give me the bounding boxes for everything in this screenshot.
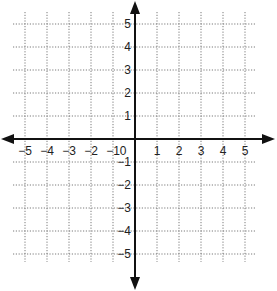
- x-axis-right-arrow-icon: [262, 134, 275, 144]
- x-tick-label: 4: [220, 144, 227, 158]
- y-axis-up-arrow-icon: [130, 1, 140, 14]
- coordinate-plane: −5−4−3−2−112345 54321−1−2−3−4−5 0: [0, 0, 277, 291]
- origin-label: 0: [120, 144, 127, 158]
- y-tick-label: 4: [124, 40, 131, 54]
- x-tick-labels: −5−4−3−2−112345: [18, 144, 249, 158]
- y-tick-label: 1: [124, 109, 131, 123]
- x-axis-left-arrow-icon: [1, 134, 14, 144]
- y-axis: [130, 1, 140, 290]
- y-tick-label: −4: [117, 224, 131, 238]
- x-tick-label: −2: [84, 144, 98, 158]
- y-tick-label: −5: [117, 247, 131, 261]
- x-tick-label: −5: [18, 144, 32, 158]
- x-tick-label: −3: [62, 144, 76, 158]
- y-tick-label: −3: [117, 201, 131, 215]
- x-tick-label: 1: [154, 144, 161, 158]
- x-axis: [1, 134, 275, 144]
- x-tick-label: 2: [176, 144, 183, 158]
- x-tick-label: −4: [40, 144, 54, 158]
- y-tick-label: −2: [117, 178, 131, 192]
- y-axis-down-arrow-icon: [130, 277, 140, 290]
- y-tick-label: 5: [124, 17, 131, 31]
- y-tick-label: 2: [124, 86, 131, 100]
- y-tick-label: 3: [124, 63, 131, 77]
- x-tick-label: 5: [242, 144, 249, 158]
- x-tick-label: 3: [198, 144, 205, 158]
